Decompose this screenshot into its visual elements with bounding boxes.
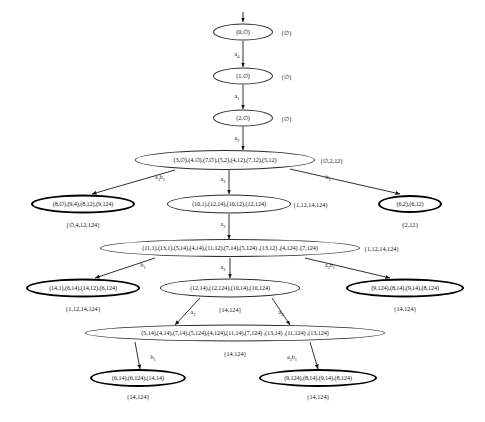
state-node-n0[interactable]: (0,∅) xyxy=(213,24,273,41)
node-set-label-n3: {∅,2,12} xyxy=(320,157,343,164)
node-set-label-n10: {14,124} xyxy=(394,305,417,312)
edge-label-3: a3b1 xyxy=(155,174,165,182)
edge-label-6: a2 xyxy=(221,221,226,229)
node-set-label-n4: {∅,4,12,124} xyxy=(66,221,100,228)
edge-n7-to-n10 xyxy=(305,258,390,278)
state-node-n12[interactable]: (6,14),(6,124),(14,14) xyxy=(90,369,186,387)
state-node-n6[interactable]: (6,2),(6,12) xyxy=(378,195,442,213)
edge-label-0: a4 xyxy=(235,51,240,59)
edge-label-7: b1 xyxy=(140,262,145,270)
state-node-n5[interactable]: (10,1),(12,14),(10,12),(12,124) xyxy=(167,195,291,214)
node-set-label-n13: {14,124} xyxy=(307,393,330,400)
state-node-n9[interactable]: (12,14),(12,124),(10,14),(10,124) xyxy=(160,279,300,298)
edge-label-5: b1 xyxy=(325,174,330,182)
set-label-s9: {14,124} xyxy=(219,306,242,313)
node-set-label-n8: {1,12,14,124} xyxy=(65,305,100,312)
state-node-n13[interactable]: (9,124),(8,14),(9,14),(8,124) xyxy=(259,369,377,387)
edge-n9-to-n11 xyxy=(175,298,200,325)
state-node-n3[interactable]: (3,∅),(4,∅),(7,∅),(5,2),(4,12),(7,12),(5… xyxy=(135,150,315,170)
edge-label-9: a2b1 xyxy=(325,262,335,270)
edge-label-11: a3 xyxy=(279,309,284,317)
edge-label-12: b1 xyxy=(150,354,155,362)
edge-label-8: a3 xyxy=(221,264,226,272)
edge-label-13: a3b1 xyxy=(287,354,297,362)
state-node-n10[interactable]: (9,124),(8,14),(9,14),(8,124) xyxy=(346,279,464,298)
state-node-n4[interactable]: (8,∅),(9,4),(8,12),(9,124) xyxy=(31,195,135,214)
node-set-label-n1: {∅} xyxy=(281,73,292,80)
edge-label-10: a2 xyxy=(191,309,196,317)
edge-label-2: a2 xyxy=(235,135,240,143)
edge-label-1: a1 xyxy=(235,93,240,101)
edge-label-4: a3 xyxy=(221,176,226,184)
edge-n3-to-n6 xyxy=(290,169,400,194)
edge-n11-to-n12 xyxy=(135,342,140,369)
edge-n7-to-n8 xyxy=(95,258,155,278)
node-set-label-n6: {2,12} xyxy=(402,221,419,228)
node-set-label-n2: {∅} xyxy=(281,115,292,122)
node-set-label-n12: {14,124} xyxy=(127,393,150,400)
state-node-n1[interactable]: (1,∅) xyxy=(213,68,273,85)
state-node-n7[interactable]: (11,1),(13,1),(5,14),(4,14),(11,12),(7,1… xyxy=(100,239,360,257)
node-set-label-n7: {1,12,14,124} xyxy=(364,245,399,252)
state-node-n11[interactable]: (5,14),(4,14),(7,14),(5,124),(4,124),(11… xyxy=(85,325,385,342)
diagram-canvas: (0,∅){∅}(1,∅){∅}(2,∅){∅}(3,∅),(4,∅),(7,∅… xyxy=(0,0,485,422)
node-set-label-n5: {1,12,14,124} xyxy=(293,201,328,208)
set-label-s11: {14,124} xyxy=(224,350,247,357)
state-node-n2[interactable]: (2,∅) xyxy=(213,110,273,127)
edge-n11-to-n13 xyxy=(310,342,318,369)
node-set-label-n0: {∅} xyxy=(281,29,292,36)
state-node-n8[interactable]: (14,1),(6,14),(14,12),(6,124) xyxy=(26,279,140,298)
